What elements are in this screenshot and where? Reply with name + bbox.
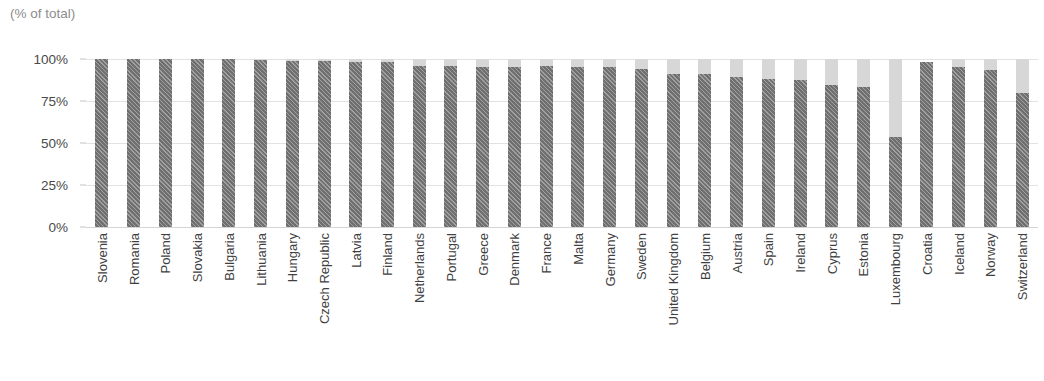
- bar-segment-light[interactable]: [1016, 59, 1029, 93]
- bar-segment-dark[interactable]: [444, 66, 457, 227]
- bar-segment-dark[interactable]: [984, 70, 997, 227]
- bar-group[interactable]: [276, 59, 308, 227]
- bar-group[interactable]: [784, 59, 816, 227]
- bar-segment-light[interactable]: [698, 59, 711, 74]
- bar-stack[interactable]: [222, 59, 235, 227]
- bar-segment-light[interactable]: [413, 59, 426, 66]
- bar-stack[interactable]: [635, 59, 648, 227]
- bar-segment-light[interactable]: [635, 59, 648, 69]
- bar-stack[interactable]: [603, 59, 616, 227]
- bar-stack[interactable]: [889, 59, 902, 227]
- bar-segment-dark[interactable]: [127, 59, 140, 227]
- bar-segment-dark[interactable]: [889, 137, 902, 227]
- bar-stack[interactable]: [920, 62, 933, 227]
- bar-stack[interactable]: [571, 59, 584, 227]
- bar-stack[interactable]: [159, 59, 172, 227]
- bar-segment-light[interactable]: [857, 59, 870, 87]
- bar-stack[interactable]: [540, 59, 553, 227]
- bar-group[interactable]: [118, 59, 150, 227]
- bar-stack[interactable]: [667, 59, 680, 227]
- bar-group[interactable]: [943, 59, 975, 227]
- bar-segment-dark[interactable]: [794, 80, 807, 227]
- bar-stack[interactable]: [444, 59, 457, 227]
- bar-segment-light[interactable]: [889, 59, 902, 137]
- bar-group[interactable]: [689, 59, 721, 227]
- bar-segment-dark[interactable]: [318, 61, 331, 227]
- bar-segment-light[interactable]: [730, 59, 743, 77]
- bar-segment-light[interactable]: [476, 59, 489, 67]
- bar-stack[interactable]: [794, 59, 807, 227]
- bar-segment-dark[interactable]: [698, 74, 711, 227]
- bar-segment-dark[interactable]: [857, 87, 870, 227]
- bar-group[interactable]: [752, 59, 784, 227]
- bar-segment-light[interactable]: [794, 59, 807, 80]
- bar-segment-dark[interactable]: [667, 74, 680, 227]
- bar-segment-dark[interactable]: [254, 60, 267, 227]
- bar-stack[interactable]: [318, 59, 331, 227]
- bar-segment-light[interactable]: [571, 59, 584, 67]
- bar-group[interactable]: [625, 59, 657, 227]
- bar-segment-light[interactable]: [825, 59, 838, 85]
- bar-stack[interactable]: [286, 59, 299, 227]
- bar-group[interactable]: [1006, 59, 1038, 227]
- bar-segment-dark[interactable]: [476, 67, 489, 227]
- bar-group[interactable]: [435, 59, 467, 227]
- bar-segment-dark[interactable]: [413, 66, 426, 227]
- bar-group[interactable]: [879, 59, 911, 227]
- bar-stack[interactable]: [857, 59, 870, 227]
- bar-stack[interactable]: [349, 59, 362, 227]
- bar-stack[interactable]: [95, 59, 108, 227]
- bar-group[interactable]: [149, 59, 181, 227]
- bar-segment-dark[interactable]: [95, 59, 108, 227]
- bar-segment-dark[interactable]: [222, 59, 235, 227]
- bar-segment-dark[interactable]: [349, 62, 362, 227]
- bar-stack[interactable]: [254, 59, 267, 227]
- bar-group[interactable]: [816, 59, 848, 227]
- bar-group[interactable]: [721, 59, 753, 227]
- bar-segment-dark[interactable]: [825, 85, 838, 227]
- bar-segment-light[interactable]: [444, 59, 457, 66]
- bar-stack[interactable]: [476, 59, 489, 227]
- bar-segment-dark[interactable]: [920, 62, 933, 227]
- bar-group[interactable]: [181, 59, 213, 227]
- bar-group[interactable]: [372, 59, 404, 227]
- bar-segment-dark[interactable]: [540, 66, 553, 227]
- bar-segment-light[interactable]: [762, 59, 775, 79]
- bar-segment-dark[interactable]: [762, 79, 775, 227]
- bar-segment-dark[interactable]: [191, 59, 204, 227]
- bar-segment-dark[interactable]: [286, 61, 299, 227]
- bar-group[interactable]: [213, 59, 245, 227]
- bar-segment-light[interactable]: [984, 59, 997, 70]
- bar-segment-dark[interactable]: [571, 67, 584, 227]
- bar-group[interactable]: [911, 59, 943, 227]
- bar-stack[interactable]: [413, 59, 426, 227]
- bar-segment-dark[interactable]: [508, 67, 521, 227]
- bar-stack[interactable]: [381, 59, 394, 227]
- bar-segment-dark[interactable]: [952, 67, 965, 227]
- bar-group[interactable]: [86, 59, 118, 227]
- bar-segment-dark[interactable]: [603, 67, 616, 227]
- bar-segment-light[interactable]: [540, 59, 553, 66]
- bar-group[interactable]: [467, 59, 499, 227]
- bar-group[interactable]: [308, 59, 340, 227]
- bar-stack[interactable]: [984, 59, 997, 227]
- bar-segment-light[interactable]: [508, 59, 521, 67]
- bar-stack[interactable]: [952, 59, 965, 227]
- bar-segment-light[interactable]: [667, 59, 680, 74]
- bar-group[interactable]: [245, 59, 277, 227]
- bar-stack[interactable]: [191, 59, 204, 227]
- bar-group[interactable]: [594, 59, 626, 227]
- bar-group[interactable]: [848, 59, 880, 227]
- bar-group[interactable]: [657, 59, 689, 227]
- bar-segment-light[interactable]: [603, 59, 616, 67]
- bar-segment-dark[interactable]: [730, 77, 743, 227]
- bar-group[interactable]: [340, 59, 372, 227]
- bar-group[interactable]: [499, 59, 531, 227]
- bar-stack[interactable]: [508, 59, 521, 227]
- bar-segment-dark[interactable]: [159, 59, 172, 227]
- bar-segment-dark[interactable]: [381, 62, 394, 227]
- bar-group[interactable]: [403, 59, 435, 227]
- bar-stack[interactable]: [698, 59, 711, 227]
- bar-segment-dark[interactable]: [1016, 93, 1029, 227]
- bar-stack[interactable]: [730, 59, 743, 227]
